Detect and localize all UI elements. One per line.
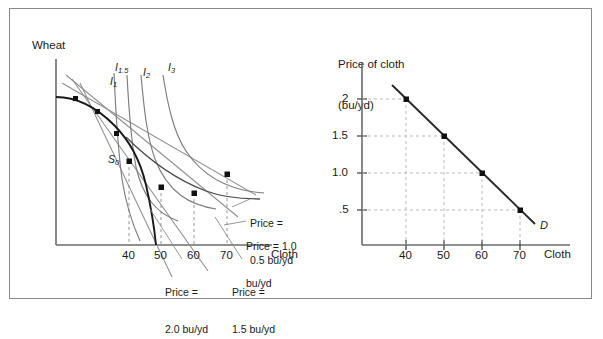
- figure-frame: Wheat: [9, 8, 592, 299]
- annotation-price-1-5-line2: 1.5 bu/yd: [232, 323, 275, 335]
- curve-label-i1: I1: [110, 75, 117, 90]
- demand-point-60-1-0: [480, 171, 486, 177]
- annotation-price-2-0-line2: 2.0 bu/yd: [165, 323, 208, 335]
- budget-line-price-2-0: [80, 83, 172, 277]
- curve-label-i2: I2: [143, 66, 150, 81]
- left-panel: Wheat: [10, 9, 320, 298]
- curve-label-i15-sub: 1.5: [118, 66, 128, 75]
- left-xtick-70: 70: [220, 249, 233, 263]
- demand-point-40-2-0: [404, 97, 410, 103]
- right-xtick-60: 60: [475, 249, 488, 263]
- annotation-price-1-5-line1: Price =: [232, 286, 275, 298]
- ppf-point-c: [114, 131, 119, 136]
- annotation-price-2-0-line1: Price =: [165, 286, 208, 298]
- ppf-point-a: [73, 96, 78, 101]
- curve-label-i1-sub: 1: [113, 80, 117, 89]
- demand-curve-label: D: [540, 219, 548, 232]
- equilibrium-label-sub: 0: [115, 158, 119, 167]
- curve-label-i15: I1.5: [115, 61, 128, 76]
- curve-label-i3: I3: [168, 61, 175, 76]
- annotation-price-1-5: Price = 1.5 bu/yd: [232, 261, 275, 339]
- left-xtick-40: 40: [122, 249, 135, 263]
- point-s0: [127, 159, 133, 165]
- curve-label-i2-sub: 2: [146, 71, 150, 80]
- budget-line-price-0-5: [62, 83, 256, 195]
- point-cloth-60: [192, 191, 198, 197]
- right-ytick-10: 1.0: [332, 166, 348, 180]
- right-ytick-05: .5: [339, 203, 349, 217]
- demand-curve: [392, 85, 535, 224]
- right-xtick-50: 50: [437, 249, 450, 263]
- right-xtick-70: 70: [513, 249, 526, 263]
- demand-point-70-0-5: [518, 208, 524, 214]
- right-xtick-40: 40: [399, 249, 412, 263]
- equilibrium-label-base: S: [108, 153, 115, 165]
- annotation-price-2-0: Price = 2.0 bu/yd: [165, 261, 208, 339]
- point-cloth-70: [225, 172, 231, 178]
- right-ytick-15: 1.5: [332, 129, 348, 143]
- leader-price-0-5: [232, 199, 250, 207]
- production-possibility-frontier: [56, 97, 156, 245]
- right-panel: Price of cloth (bu/yd): [320, 9, 593, 298]
- curve-label-i3-sub: 3: [171, 66, 175, 75]
- ppf-point-b: [95, 109, 100, 114]
- demand-point-50-1-5: [442, 134, 448, 140]
- right-ytick-2: 2: [342, 92, 348, 106]
- right-x-axis-label: Cloth: [544, 248, 571, 262]
- indifference-curve-i3: [163, 75, 264, 193]
- annotation-price-1-0-line1: Price = 1.0: [246, 240, 297, 252]
- equilibrium-label-s0: S0: [108, 153, 119, 168]
- point-cloth-50: [159, 185, 165, 191]
- budget-line-price-1-0: [66, 75, 238, 217]
